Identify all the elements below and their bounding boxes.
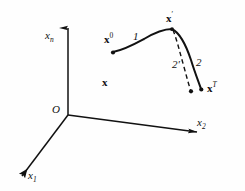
point-xT-marker xyxy=(199,87,203,91)
point-x2prime-end-marker xyxy=(189,89,193,93)
origin-label: O xyxy=(52,104,60,115)
point-x0-marker xyxy=(111,50,115,54)
point-label-x0: x0 xyxy=(104,34,113,45)
axis-right-x2 xyxy=(68,115,197,132)
point-label-x-prime: x′ xyxy=(166,13,173,24)
axis-lowerleft-x1 xyxy=(22,115,68,176)
axis-label-x2: x2 xyxy=(197,117,206,128)
point-label-xT: xT xyxy=(207,83,217,94)
segment-label-2: 2 xyxy=(196,57,202,68)
axis-label-x1: x1 xyxy=(28,170,37,181)
segment-label-2-prime: 2′ xyxy=(172,59,180,70)
point-xprime-marker xyxy=(170,27,174,31)
trajectory-diagram: xn x2 x1 O x0 x′ xT x 1 2 2′ xyxy=(0,0,245,191)
axis-label-xn: xn xyxy=(45,30,54,41)
point-label-x: x xyxy=(102,77,108,88)
diagram-canvas xyxy=(0,0,245,191)
segment-label-1: 1 xyxy=(133,31,139,42)
trajectory-segment-1 xyxy=(113,29,172,52)
